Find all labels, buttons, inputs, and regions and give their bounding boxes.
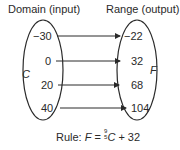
rule-formula: Rule: F = 95C + 32	[56, 128, 140, 143]
domain-value: −30	[33, 30, 52, 42]
range-value: 104	[131, 102, 149, 114]
domain-value: 0	[45, 55, 51, 67]
domain-variable: C	[22, 68, 30, 80]
range-value: −22	[124, 30, 143, 42]
rule-eq: =	[91, 131, 104, 143]
domain-value: 40	[41, 102, 53, 114]
range-value: 68	[131, 79, 143, 91]
rule-suffix: + 32	[115, 131, 140, 143]
range-value: 32	[131, 55, 143, 67]
range-variable: F	[150, 64, 157, 76]
rule-prefix: Rule:	[56, 131, 85, 143]
domain-value: 20	[41, 79, 53, 91]
